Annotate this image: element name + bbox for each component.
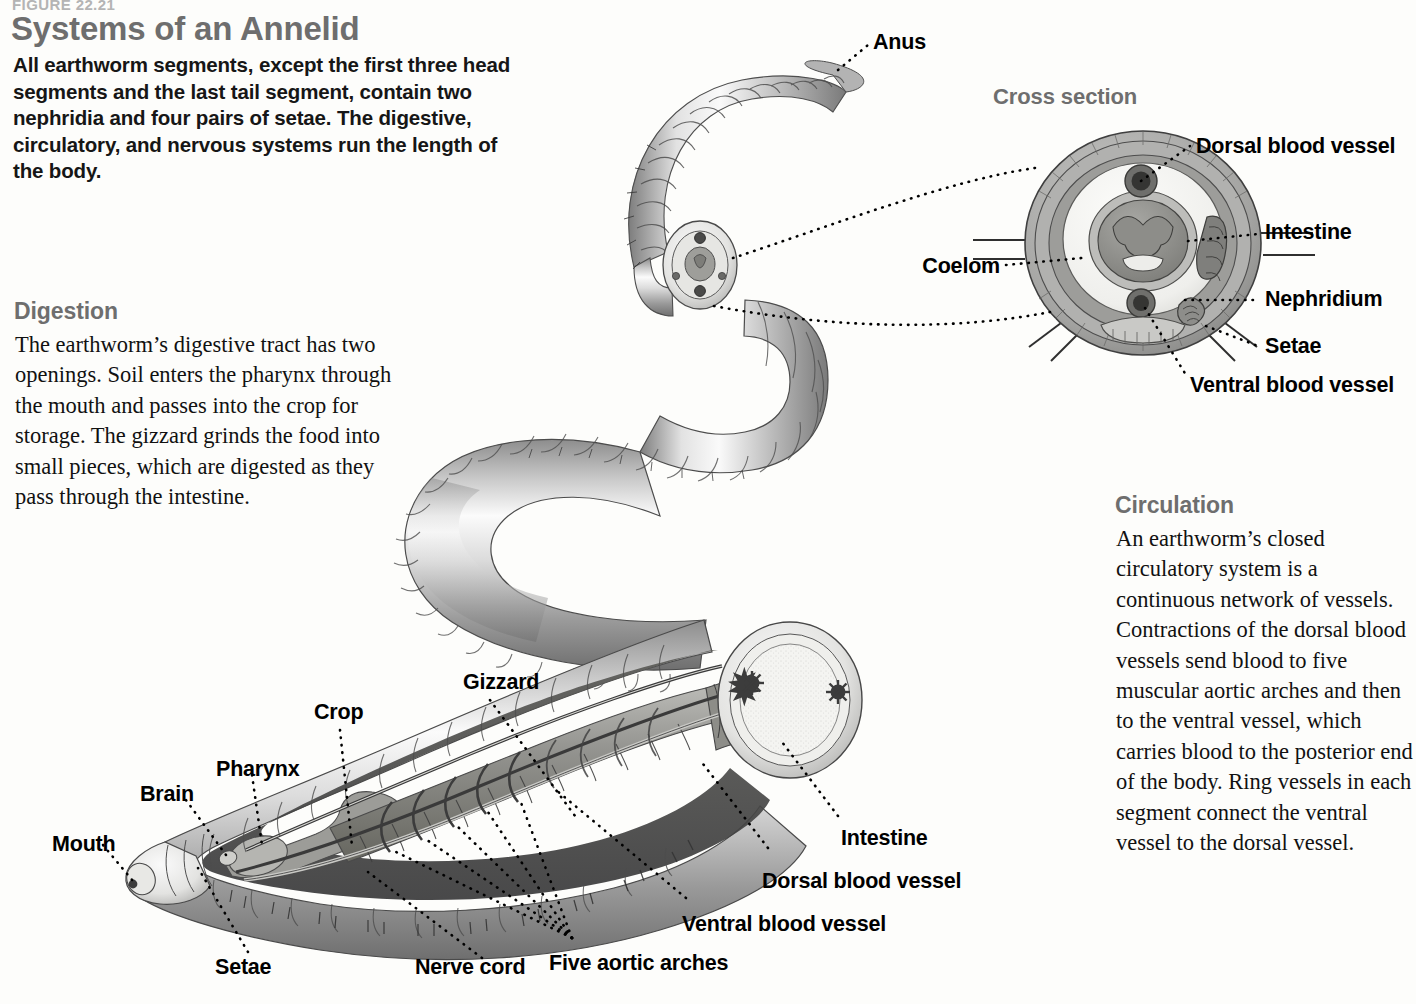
label-intestine-cs: Intestine bbox=[1265, 220, 1352, 245]
page-title: Systems of an Annelid bbox=[11, 10, 360, 48]
cross-section-diagram bbox=[973, 131, 1315, 361]
section-heading-cross-section: Cross section bbox=[993, 84, 1137, 110]
label-dorsal-blood-vessel-cs: Dorsal blood vessel bbox=[1196, 134, 1395, 159]
label-gizzard: Gizzard bbox=[463, 670, 539, 695]
label-dorsal-blood-vessel-cutaway: Dorsal blood vessel bbox=[762, 869, 961, 894]
label-nerve-cord: Nerve cord bbox=[415, 955, 525, 980]
label-pharynx: Pharynx bbox=[216, 757, 299, 782]
label-anus: Anus bbox=[873, 30, 926, 55]
label-five-aortic-arches: Five aortic arches bbox=[549, 951, 728, 976]
label-nephridium-cs: Nephridium bbox=[1265, 287, 1382, 312]
worm-tail-body bbox=[624, 61, 864, 316]
label-intestine-cutaway: Intestine bbox=[841, 826, 928, 851]
label-coelom: Coelom bbox=[922, 254, 1000, 279]
label-setae-cutaway: Setae bbox=[215, 955, 271, 980]
label-brain: Brain bbox=[140, 782, 194, 807]
ventral-vessel-circle bbox=[1127, 289, 1155, 317]
section-body-circulation: An earthworm’s closed circulatory system… bbox=[1116, 524, 1416, 858]
label-mouth: Mouth bbox=[52, 832, 115, 857]
label-crop: Crop bbox=[314, 700, 363, 725]
section-heading-circulation: Circulation bbox=[1115, 492, 1234, 519]
label-setae-cs: Setae bbox=[1265, 334, 1321, 359]
label-ventral-blood-vessel-cutaway: Ventral blood vessel bbox=[682, 912, 886, 937]
section-body-digestion: The earthworm’s digestive tract has two … bbox=[15, 330, 407, 512]
tail-cut-face bbox=[663, 221, 737, 309]
label-ventral-blood-vessel-cs: Ventral blood vessel bbox=[1190, 373, 1394, 398]
anterior-cut-face bbox=[718, 622, 862, 778]
figure-intro: All earthworm segments, except the first… bbox=[13, 52, 518, 185]
section-heading-digestion: Digestion bbox=[14, 298, 118, 325]
